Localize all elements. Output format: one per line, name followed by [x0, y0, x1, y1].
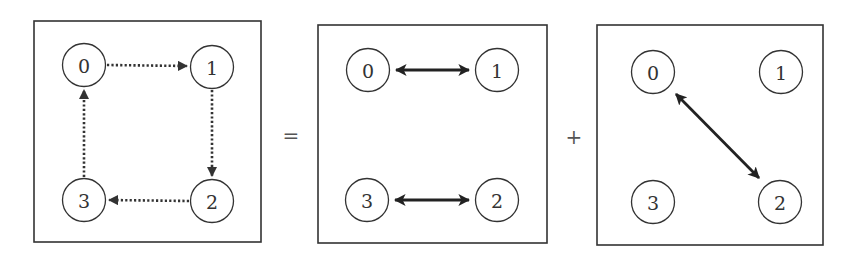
- node-1: 1: [476, 49, 519, 92]
- arrow-2-to-3: [109, 200, 189, 201]
- node-0: 0: [63, 44, 106, 87]
- arrow-0-to-1: [107, 65, 187, 66]
- node-3: 3: [63, 179, 106, 222]
- svg-text:2: 2: [491, 190, 503, 212]
- svg-text:1: 1: [491, 60, 503, 82]
- svg-text:0: 0: [78, 55, 90, 77]
- plus-sign: +: [566, 125, 583, 149]
- panel-horizontal-swaps: 0 1 2 3: [318, 25, 547, 243]
- node-2: 2: [191, 180, 234, 223]
- svg-text:0: 0: [647, 62, 659, 84]
- svg-text:1: 1: [775, 62, 787, 84]
- node-2: 2: [759, 181, 802, 224]
- panel-diagonal-swap: 0 1 2 3: [597, 25, 823, 245]
- node-2: 2: [476, 179, 519, 222]
- svg-text:0: 0: [362, 60, 374, 82]
- double-arrow-0-2: [676, 94, 759, 178]
- equals-sign: =: [283, 124, 300, 148]
- node-0: 0: [347, 49, 390, 92]
- svg-text:2: 2: [774, 192, 786, 214]
- node-0: 0: [632, 51, 675, 94]
- panel-cycle: 0 1 2 3: [34, 21, 261, 242]
- node-1: 1: [191, 46, 234, 89]
- node-3: 3: [346, 179, 389, 222]
- svg-text:3: 3: [647, 192, 659, 214]
- node-1: 1: [760, 51, 803, 94]
- permutation-decomposition-diagram: 0 1 2 3 = 0 1 2 3 + 0 1 2 3: [0, 0, 855, 258]
- svg-text:3: 3: [361, 190, 373, 212]
- svg-text:1: 1: [206, 57, 218, 79]
- svg-text:3: 3: [78, 190, 90, 212]
- svg-text:2: 2: [206, 191, 218, 213]
- node-3: 3: [632, 181, 675, 224]
